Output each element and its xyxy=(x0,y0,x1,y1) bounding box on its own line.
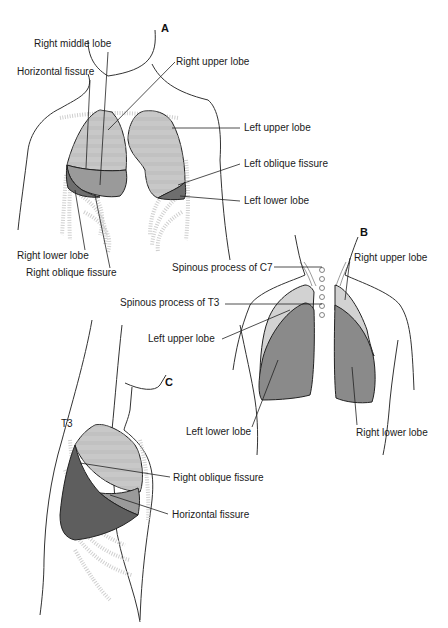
label-c-horizontal-fissure: Horizontal fissure xyxy=(172,509,249,521)
label-a-left-lower-lobe: Left lower lobe xyxy=(244,195,309,207)
label-b-left-lower-lobe: Left lower lobe xyxy=(186,426,251,438)
lung-lobes-diagram xyxy=(0,0,448,628)
vertebrae-spinous-processes xyxy=(320,268,325,318)
label-a-left-upper-lobe: Left upper lobe xyxy=(244,122,311,134)
label-b-spinous-process-c7: Spinous process of C7 xyxy=(172,262,273,274)
label-b-spinous-process-t3: Spinous process of T3 xyxy=(120,297,219,309)
label-a-horizontal-fissure: Horizontal fissure xyxy=(17,66,94,78)
label-a-right-middle-lobe: Right middle lobe xyxy=(34,38,111,50)
label-a-left-oblique-fissure: Left oblique fissure xyxy=(244,158,328,170)
posterior-right-lower-lobe xyxy=(334,305,375,403)
posterior-left-lower-lobe xyxy=(259,303,314,400)
panel-c-lateral-view xyxy=(40,320,170,622)
panel-letter-a: A xyxy=(161,22,169,34)
neck-muscle-lines xyxy=(300,262,350,286)
label-b-right-upper-lobe: Right upper lobe xyxy=(354,252,427,264)
label-c-right-oblique-fissure: Right oblique fissure xyxy=(173,472,264,484)
panel-letter-c: C xyxy=(165,376,173,388)
label-a-right-lower-lobe: Right lower lobe xyxy=(17,250,89,262)
panel-letter-b: B xyxy=(360,226,368,238)
label-c-t3: T3 xyxy=(61,418,73,430)
label-a-right-oblique-fissure: Right oblique fissure xyxy=(26,267,117,279)
label-b-left-upper-lobe: Left upper lobe xyxy=(148,333,215,345)
label-a-right-upper-lobe: Right upper lobe xyxy=(176,56,249,68)
label-b-right-lower-lobe: Right lower lobe xyxy=(356,427,428,439)
